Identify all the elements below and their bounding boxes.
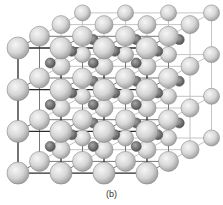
- corner-atom: [30, 151, 50, 171]
- corner-atom: [204, 5, 220, 21]
- corner-atom: [161, 88, 177, 104]
- corner-atom: [116, 151, 136, 171]
- corner-atom: [136, 79, 158, 101]
- corner-atom: [75, 47, 91, 63]
- corner-atom: [73, 68, 93, 88]
- atoms: [7, 5, 220, 184]
- body-center-atom: [131, 58, 141, 68]
- corner-atom: [136, 120, 158, 142]
- corner-atom: [50, 162, 72, 184]
- corner-atom: [50, 37, 72, 59]
- corner-atom: [136, 162, 158, 184]
- corner-atom: [7, 37, 29, 59]
- corner-atom: [52, 16, 70, 34]
- body-center-atom: [131, 100, 141, 110]
- body-center-atom: [45, 100, 55, 110]
- corner-atom: [159, 110, 179, 130]
- corner-atom: [138, 99, 156, 117]
- corner-atom: [181, 141, 199, 159]
- corner-atom: [118, 47, 134, 63]
- body-center-atom: [131, 141, 141, 151]
- corner-atom: [93, 120, 115, 142]
- corner-atom: [159, 151, 179, 171]
- corner-atom: [50, 120, 72, 142]
- corner-atom: [7, 120, 29, 142]
- corner-atom: [75, 88, 91, 104]
- corner-atom: [75, 130, 91, 146]
- corner-atom: [161, 130, 177, 146]
- body-center-atom: [45, 141, 55, 151]
- corner-atom: [95, 57, 113, 75]
- corner-atom: [116, 68, 136, 88]
- corner-atom: [181, 16, 199, 34]
- corner-atom: [7, 79, 29, 101]
- corner-atom: [93, 37, 115, 59]
- body-center-atom: [88, 100, 98, 110]
- corner-atom: [30, 68, 50, 88]
- corner-atom: [161, 5, 177, 21]
- body-center-atom: [45, 58, 55, 68]
- crystal-lattice-diagram: [0, 0, 223, 205]
- corner-atom: [161, 47, 177, 63]
- corner-atom: [30, 26, 50, 46]
- corner-atom: [181, 99, 199, 117]
- corner-atom: [73, 110, 93, 130]
- corner-atom: [204, 47, 220, 63]
- corner-atom: [7, 162, 29, 184]
- corner-atom: [95, 16, 113, 34]
- corner-atom: [30, 110, 50, 130]
- corner-atom: [73, 26, 93, 46]
- corner-atom: [138, 141, 156, 159]
- corner-atom: [95, 141, 113, 159]
- corner-atom: [52, 57, 70, 75]
- corner-atom: [50, 79, 72, 101]
- corner-atom: [95, 99, 113, 117]
- corner-atom: [52, 141, 70, 159]
- corner-atom: [204, 88, 220, 104]
- corner-atom: [118, 130, 134, 146]
- corner-atom: [93, 162, 115, 184]
- corner-atom: [118, 88, 134, 104]
- corner-atom: [159, 68, 179, 88]
- corner-atom: [73, 151, 93, 171]
- corner-atom: [138, 57, 156, 75]
- figure-caption: (b): [0, 189, 223, 199]
- corner-atom: [159, 26, 179, 46]
- corner-atom: [93, 79, 115, 101]
- corner-atom: [181, 57, 199, 75]
- corner-atom: [138, 16, 156, 34]
- corner-atom: [116, 110, 136, 130]
- corner-atom: [52, 99, 70, 117]
- corner-atom: [118, 5, 134, 21]
- corner-atom: [136, 37, 158, 59]
- corner-atom: [204, 130, 220, 146]
- body-center-atom: [88, 141, 98, 151]
- body-center-atom: [88, 58, 98, 68]
- corner-atom: [75, 5, 91, 21]
- corner-atom: [116, 26, 136, 46]
